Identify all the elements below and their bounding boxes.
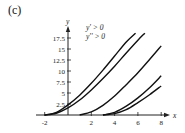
chart: xy-224682.557.51012.51517.5y' > 0y'' > 0 <box>0 0 185 133</box>
y-tick-label: 12.5 <box>53 57 66 65</box>
y-tick-label: 17.5 <box>53 35 66 43</box>
annotation: y'' > 0 <box>85 32 105 41</box>
y-tick-label: 10 <box>58 68 66 76</box>
x-tick-label: 6 <box>136 119 140 127</box>
annotation: y' > 0 <box>85 23 104 32</box>
series-curve-4 <box>103 76 161 115</box>
y-tick-label: 15 <box>58 46 66 54</box>
x-tick-label: 8 <box>159 119 163 127</box>
y-axis-label: y <box>65 17 70 26</box>
series-curve-3 <box>80 46 162 115</box>
y-tick-label: 5 <box>62 90 66 98</box>
series-curve-5 <box>103 86 161 115</box>
x-axis-arrow-icon <box>164 113 170 117</box>
x-tick-label: -2 <box>42 119 48 127</box>
y-axis-arrow-icon <box>66 26 70 32</box>
x-axis-label: x <box>172 111 177 120</box>
x-tick-label: 4 <box>113 119 117 127</box>
x-tick-label: 2 <box>90 119 94 127</box>
y-tick-label: 7.5 <box>56 79 65 87</box>
